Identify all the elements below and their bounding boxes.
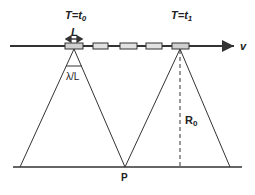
beam-right-edge-t0 xyxy=(74,49,125,167)
target-point-label: P xyxy=(121,172,128,183)
antenna-length-label: L xyxy=(71,26,78,38)
antenna-box-t1 xyxy=(172,43,189,49)
antenna-box xyxy=(120,43,137,49)
antenna-box xyxy=(93,43,108,49)
beam-left-edge-t1 xyxy=(125,49,180,167)
time-label-t1: T=t1 xyxy=(171,9,193,23)
beam-left-edge-t0 xyxy=(20,49,74,167)
antenna-box-t0 xyxy=(65,43,83,49)
beam-right-edge-t1 xyxy=(180,49,230,167)
velocity-label: v xyxy=(240,40,247,52)
antenna-box xyxy=(146,43,162,49)
range-label: R0 xyxy=(185,114,198,128)
beamwidth-label: λ/L xyxy=(66,71,80,82)
time-label-t0: T=t0 xyxy=(65,9,87,23)
sar-geometry-diagram: T=t0 T=t1 L λ/L R0 P v xyxy=(0,0,255,195)
